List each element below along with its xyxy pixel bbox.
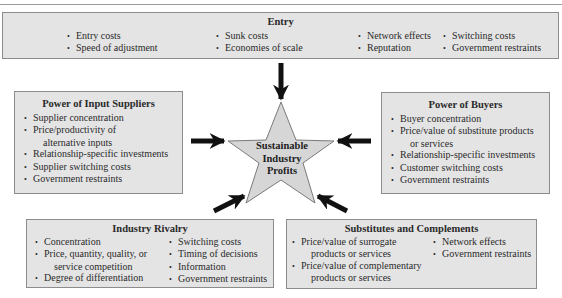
arrow-up-right-icon [214, 196, 244, 211]
arrow-up-left-icon [318, 196, 347, 211]
center-label: Sustainable Industry Profits [244, 140, 320, 178]
